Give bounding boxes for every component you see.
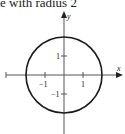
- circle-diagram: y x −1 1 1 −1: [0, 0, 125, 134]
- x-tick-label-neg1: −1: [39, 80, 48, 89]
- x-axis-label: x: [116, 64, 121, 73]
- x-tick-label-1: 1: [81, 80, 85, 89]
- y-tick-label-1: 1: [56, 52, 60, 61]
- y-tick-label-neg1: −1: [51, 90, 60, 99]
- y-axis-label: y: [66, 12, 71, 21]
